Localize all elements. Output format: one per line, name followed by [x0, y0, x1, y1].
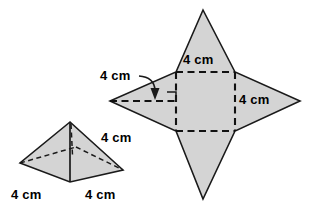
label-net-top: 4 cm	[183, 53, 213, 66]
net-star-outline	[110, 10, 300, 199]
label-pyramid-base-right: 4 cm	[85, 188, 115, 201]
label-pyramid-base-left: 4 cm	[11, 188, 41, 201]
label-net-slant: 4 cm	[100, 69, 130, 82]
figure-canvas	[0, 0, 309, 214]
label-net-right: 4 cm	[239, 93, 269, 106]
geometry-figure: 4 cm 4 cm 4 cm 4 cm 4 cm 4 cm	[0, 0, 309, 214]
net-diagram	[110, 10, 300, 199]
label-pyramid-slant: 4 cm	[101, 131, 131, 144]
